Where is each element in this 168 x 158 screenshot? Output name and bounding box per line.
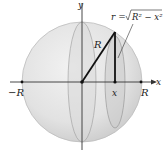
neg-R-label: −R [8, 87, 24, 98]
point-neg-R [21, 81, 24, 84]
pos-R-label: R [140, 87, 149, 98]
formula-radicand: R² − x² [131, 12, 163, 22]
x-point-label: x [112, 88, 117, 98]
sphere-diagram: y x −R R x R r = R² − x² [0, 0, 168, 158]
x-axis-label: x [156, 77, 161, 87]
point-x [113, 80, 116, 83]
point-pos-R [140, 81, 143, 84]
diagram-canvas: y x −R R x R r = R² − x² [0, 0, 168, 158]
origin-point [80, 80, 84, 84]
formula: r = R² − x² [111, 10, 163, 22]
radius-label: R [93, 39, 102, 50]
formula-lhs: r = [111, 12, 126, 22]
y-axis-label: y [77, 0, 84, 10]
